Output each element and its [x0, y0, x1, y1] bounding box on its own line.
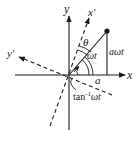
theta-label: θ [83, 36, 89, 48]
particle-dot [104, 28, 109, 33]
y-prime-axis-label: y′ [6, 47, 15, 59]
tan-argument: ωt [91, 91, 101, 102]
diagram-canvas: y x x′ y′ θ ωt aωt a tan-1ωt [0, 0, 139, 141]
a-omega-t-label: aωt [109, 46, 124, 57]
tan-inverse-leader [71, 78, 76, 90]
omegat-arc-inner [83, 60, 90, 75]
y-axis-label: y [63, 2, 70, 16]
omega-t-label: ωt [87, 50, 97, 61]
tan-prefix: tan [73, 91, 85, 102]
x-prime-axis-label: x′ [87, 6, 96, 18]
a-label: a [95, 74, 101, 86]
tan-inverse-label: tan-1ωt [73, 90, 101, 102]
x-axis-label: x [126, 68, 133, 82]
